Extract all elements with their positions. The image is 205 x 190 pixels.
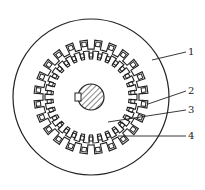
- callout-label-1: 1: [188, 47, 194, 57]
- callout-label-4: 4: [188, 131, 194, 141]
- callout-leaders: [108, 52, 186, 136]
- motor-cross-section-diagram: [0, 0, 205, 190]
- callout-label-3: 3: [188, 105, 194, 115]
- shaft: [75, 84, 104, 110]
- callout-label-2: 2: [188, 86, 194, 96]
